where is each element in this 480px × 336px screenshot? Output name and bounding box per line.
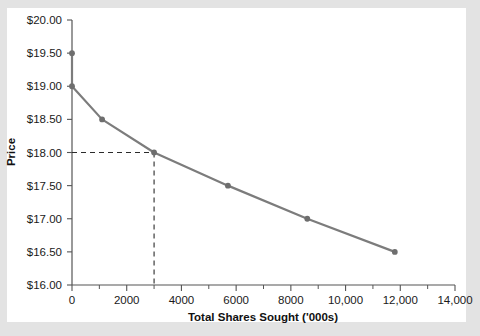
x-tick-label: 0 xyxy=(69,294,75,306)
x-tick-label: 10,000 xyxy=(328,294,363,306)
price-guide-lines xyxy=(72,153,154,286)
x-axis-tick-labels: 0200040006000800010,00012,00014,000 xyxy=(69,294,473,306)
data-point-marker xyxy=(151,150,157,156)
x-tick-label: 14,000 xyxy=(437,294,472,306)
data-point-marker xyxy=(225,183,231,189)
x-axis: 0200040006000800010,00012,00014,000 Tota… xyxy=(69,285,473,323)
x-tick-label: 12,000 xyxy=(383,294,418,306)
y-axis-tick-labels: $20.00$19.50$19.00$18.50$18.00$17.50$17.… xyxy=(27,14,62,291)
x-axis-title: Total Shares Sought ('000s) xyxy=(188,311,338,323)
y-tick-label: $17.50 xyxy=(27,180,62,192)
x-tick-label: 6000 xyxy=(223,294,249,306)
data-point-marker xyxy=(304,216,310,222)
y-tick-label: $19.00 xyxy=(27,80,62,92)
y-axis-title: Price xyxy=(5,138,17,166)
y-tick-label: $19.50 xyxy=(27,47,62,59)
y-tick-label: $20.00 xyxy=(27,14,62,26)
x-tick-label: 8000 xyxy=(278,294,304,306)
data-point-marker xyxy=(69,83,75,89)
x-tick-label: 2000 xyxy=(114,294,140,306)
y-tick-label: $16.50 xyxy=(27,246,62,258)
chart-page: $20.00$19.50$19.00$18.50$18.00$17.50$17.… xyxy=(0,0,480,336)
y-tick-label: $18.00 xyxy=(27,147,62,159)
data-point-marker xyxy=(392,249,398,255)
y-tick-label: $16.00 xyxy=(27,279,62,291)
y-tick-label: $18.50 xyxy=(27,113,62,125)
y-tick-label: $17.00 xyxy=(27,213,62,225)
data-point-marker xyxy=(69,50,75,56)
x-tick-label: 4000 xyxy=(169,294,195,306)
data-point-marker xyxy=(99,116,105,122)
price-vs-shares-line-chart: $20.00$19.50$19.00$18.50$18.00$17.50$17.… xyxy=(0,0,480,336)
y-axis: $20.00$19.50$19.00$18.50$18.00$17.50$17.… xyxy=(5,14,72,291)
